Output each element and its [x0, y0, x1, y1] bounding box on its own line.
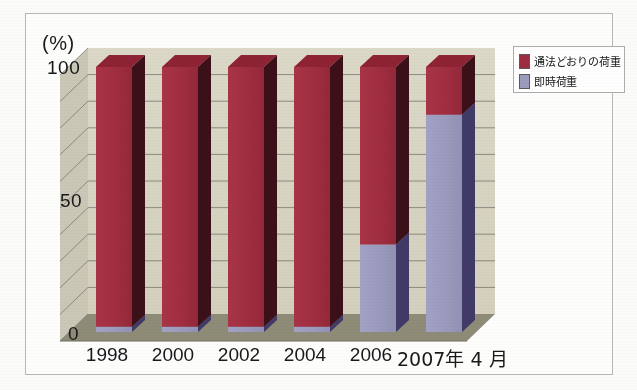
y-axis-unit-label: (%) — [42, 32, 75, 55]
legend-swatch-red-icon — [519, 54, 530, 69]
legend-item-1: 即時荷重 — [519, 71, 620, 91]
y-tick-0: 0 — [68, 323, 79, 345]
legend-swatch-purple-icon — [519, 74, 530, 89]
x-tick-2000: 2000 — [138, 344, 208, 366]
y-tick-100: 100 — [47, 57, 80, 79]
x-tick-2006: 2006 — [336, 344, 406, 366]
chart-screenshot: (%) 100 50 0 1998 2000 2002 2004 2006 20… — [0, 0, 637, 390]
legend-label-1: 即時荷重 — [534, 73, 577, 89]
x-tick-2007: 2007年 4 月 — [397, 344, 507, 371]
chart-legend: 通法どおりの荷重 即時荷重 — [513, 46, 625, 93]
y-tick-50: 50 — [60, 190, 82, 212]
legend-item-0: 通法どおりの荷重 — [519, 51, 620, 71]
x-tick-2004: 2004 — [270, 344, 340, 366]
x-tick-2002: 2002 — [204, 344, 274, 366]
x-tick-1998: 1998 — [72, 344, 142, 366]
legend-label-0: 通法どおりの荷重 — [534, 53, 620, 69]
